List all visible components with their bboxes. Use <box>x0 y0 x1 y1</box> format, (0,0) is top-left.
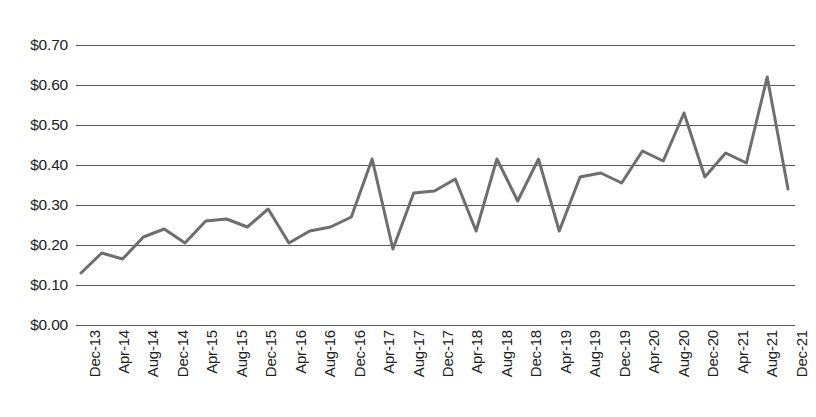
x-tick-label: Aug-16 <box>322 330 337 377</box>
x-tick-label: Dec-19 <box>617 330 632 377</box>
x-tick-label: Apr-18 <box>469 330 484 374</box>
x-tick-label: Aug-15 <box>234 330 249 377</box>
x-tick-label: Apr-19 <box>558 330 573 374</box>
x-tick-label: Dec-13 <box>87 330 102 377</box>
y-tick-label: $0.60 <box>6 77 68 93</box>
x-tick-label: Apr-20 <box>646 330 661 374</box>
y-axis: $0.70$0.60$0.50$0.40$0.30$0.20$0.10$0.00 <box>0 45 68 325</box>
y-tick-label: $0.40 <box>6 157 68 173</box>
x-tick-label: Aug-14 <box>145 330 160 377</box>
series-line <box>76 45 795 325</box>
y-tick-label: $0.70 <box>6 37 68 53</box>
x-tick-label: Dec-17 <box>440 330 455 377</box>
x-tick-label: Apr-14 <box>116 330 131 374</box>
x-tick-label: Aug-19 <box>587 330 602 377</box>
x-tick-label: Aug-21 <box>764 330 779 377</box>
plot-area <box>76 45 795 325</box>
x-tick-label: Apr-15 <box>204 330 219 374</box>
x-tick-label: Dec-15 <box>263 330 278 377</box>
x-tick-label: Dec-20 <box>705 330 720 377</box>
gridline <box>76 325 795 326</box>
x-tick-label: Dec-16 <box>352 330 367 377</box>
x-tick-label: Aug-20 <box>676 330 691 377</box>
x-tick-label: Apr-16 <box>293 330 308 374</box>
x-axis: Dec-13Apr-14Aug-14Dec-14Apr-15Aug-15Dec-… <box>0 330 816 417</box>
x-tick-label: Aug-17 <box>411 330 426 377</box>
x-tick-label: Dec-14 <box>175 330 190 377</box>
x-tick-label: Dec-18 <box>528 330 543 377</box>
line-chart: $0.70$0.60$0.50$0.40$0.30$0.20$0.10$0.00… <box>0 0 816 417</box>
x-tick-label: Apr-21 <box>735 330 750 374</box>
y-tick-label: $0.30 <box>6 197 68 213</box>
y-tick-label: $0.50 <box>6 117 68 133</box>
x-tick-label: Apr-17 <box>381 330 396 374</box>
x-tick-label: Aug-18 <box>499 330 514 377</box>
y-tick-label: $0.10 <box>6 277 68 293</box>
series-polyline <box>81 77 788 273</box>
x-tick-label: Dec-21 <box>794 330 809 377</box>
y-tick-label: $0.20 <box>6 237 68 253</box>
